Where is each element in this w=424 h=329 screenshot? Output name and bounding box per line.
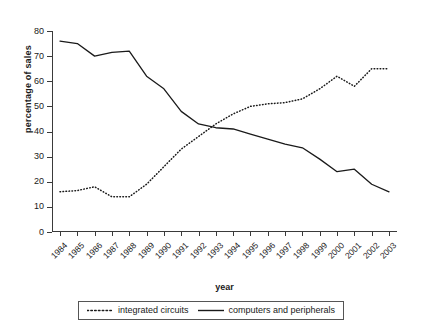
cropped-title-remnant <box>0 0 424 6</box>
legend-swatch-solid <box>198 307 224 314</box>
series-lines <box>52 31 397 232</box>
x-tick-label-text: 1990 <box>154 241 174 261</box>
x-tick-label-text: 1992 <box>188 241 208 261</box>
legend-swatch-dotted <box>87 307 113 314</box>
x-tick-label-text: 1999 <box>309 241 329 261</box>
legend-label: computers and peripherals <box>229 305 336 315</box>
y-tick-label: 60 <box>14 77 44 86</box>
x-tick-label-text: 2002 <box>361 241 381 261</box>
chart-figure: percentage of sales 01020304050607080 19… <box>0 0 424 329</box>
legend-item-computers-and-peripherals: computers and peripherals <box>198 305 336 315</box>
y-tick-label-text: 20 <box>14 177 44 186</box>
x-tick-label-text: 1984 <box>50 241 70 261</box>
legend-label: integrated circuits <box>118 305 189 315</box>
y-tick-label: 50 <box>14 102 44 111</box>
x-tick-label-text: 1991 <box>171 241 191 261</box>
y-tick-label: 10 <box>14 202 44 211</box>
y-tick-label-text: 80 <box>14 27 44 36</box>
x-tick-label-text: 1998 <box>292 241 312 261</box>
x-axis-title: year <box>52 282 397 292</box>
y-tick-label-text: 40 <box>14 127 44 136</box>
y-tick-label-text: 30 <box>14 152 44 161</box>
chart-legend: integrated circuits computers and periph… <box>78 301 344 320</box>
plot-area: 01020304050607080 1984198519861987198819… <box>52 31 397 232</box>
x-tick-label-text: 1993 <box>205 241 225 261</box>
x-tick-label-text: 1994 <box>223 241 243 261</box>
y-tick-label-text: 0 <box>14 228 44 237</box>
x-tick-label-text: 1996 <box>257 241 277 261</box>
y-tick-label-text: 50 <box>14 102 44 111</box>
y-tick-label: 40 <box>14 127 44 136</box>
y-tick <box>47 232 52 233</box>
y-tick-label: 30 <box>14 152 44 161</box>
x-tick-label-text: 1995 <box>240 241 260 261</box>
y-tick-label-text: 60 <box>14 77 44 86</box>
legend-item-integrated-circuits: integrated circuits <box>87 305 189 315</box>
series-line-integrated-circuits <box>60 69 389 197</box>
x-tick-label-text: 2001 <box>344 241 364 261</box>
x-tick-label-text: 2000 <box>327 241 347 261</box>
x-tick-label-text: 1988 <box>119 241 139 261</box>
y-tick-label-text: 70 <box>14 52 44 61</box>
y-tick-label: 20 <box>14 177 44 186</box>
x-tick-label-text: 1997 <box>275 241 295 261</box>
x-tick-label-text: 1985 <box>67 241 87 261</box>
series-line-computers-and-peripherals <box>60 41 389 192</box>
y-tick-label-text: 10 <box>14 202 44 211</box>
x-tick-label-text: 2003 <box>379 241 399 261</box>
y-tick-label: 80 <box>14 27 44 36</box>
y-tick-label: 70 <box>14 52 44 61</box>
y-tick-label: 0 <box>14 228 44 237</box>
x-tick-label-text: 1986 <box>84 241 104 261</box>
x-tick-label-text: 1987 <box>102 241 122 261</box>
x-tick-label-text: 1989 <box>136 241 156 261</box>
